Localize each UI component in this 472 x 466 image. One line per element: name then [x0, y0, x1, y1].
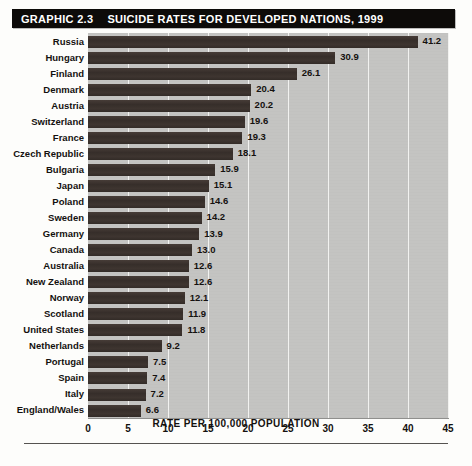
- gridline: [448, 33, 449, 418]
- bar-row: 7.4: [88, 370, 448, 387]
- category-label: Norway: [0, 291, 84, 305]
- bar: [88, 212, 202, 224]
- bar-value-label: 30.9: [340, 50, 359, 64]
- category-label: Switzerland: [0, 115, 84, 129]
- bar-row: 13.9: [88, 226, 448, 243]
- bar-value-label: 13.0: [197, 243, 216, 257]
- category-label: Scotland: [0, 307, 84, 321]
- bar: [88, 308, 183, 320]
- bar-value-label: 7.2: [151, 387, 164, 401]
- bar-row: 9.2: [88, 338, 448, 355]
- category-label: Japan: [0, 179, 84, 193]
- bar: [88, 52, 335, 64]
- bar-row: 20.2: [88, 97, 448, 114]
- bar-value-label: 12.6: [194, 275, 213, 289]
- category-label: Bulgaria: [0, 163, 84, 177]
- category-label: Australia: [0, 259, 84, 273]
- bar: [88, 244, 192, 256]
- bar-row: 7.2: [88, 386, 448, 403]
- bottom-divider: [24, 443, 448, 444]
- bar: [88, 132, 242, 144]
- graphic-number: GRAPHIC 2.3: [12, 13, 93, 25]
- bar: [88, 260, 189, 272]
- plot-area: 41.230.926.120.420.219.619.318.115.915.1…: [88, 33, 449, 419]
- bar-row: 41.2: [88, 33, 448, 50]
- bar-row: 13.0: [88, 242, 448, 259]
- bar: [88, 372, 147, 384]
- bar-row: 15.9: [88, 161, 448, 178]
- bar-value-label: 20.2: [255, 98, 274, 112]
- bar: [88, 84, 251, 96]
- bar-chart: RussiaHungaryFinlandDenmarkAustriaSwitze…: [0, 30, 472, 430]
- category-label: New Zealand: [0, 275, 84, 289]
- bar-value-label: 7.4: [152, 371, 165, 385]
- bar-value-label: 18.1: [238, 146, 257, 160]
- bar-row: 19.3: [88, 129, 448, 146]
- bar-row: 26.1: [88, 65, 448, 82]
- bar-row: 15.1: [88, 177, 448, 194]
- bar-row: 14.2: [88, 209, 448, 226]
- bar-value-label: 7.5: [153, 355, 166, 369]
- category-label: United States: [0, 323, 84, 337]
- category-label: England/Wales: [0, 403, 84, 417]
- bar-value-label: 19.6: [250, 114, 269, 128]
- category-label: Canada: [0, 243, 84, 257]
- category-label: Portugal: [0, 355, 84, 369]
- bar-value-label: 20.4: [256, 82, 275, 96]
- bar-value-label: 26.1: [302, 66, 321, 80]
- bar: [88, 100, 250, 112]
- category-label: France: [0, 131, 84, 145]
- graphic-title-banner: GRAPHIC 2.3 SUICIDE RATES FOR DEVELOPED …: [12, 9, 455, 28]
- category-label: Hungary: [0, 51, 84, 65]
- bar-value-label: 12.6: [194, 259, 213, 273]
- category-label: Czech Republic: [0, 147, 84, 161]
- category-label: Russia: [0, 35, 84, 49]
- bar: [88, 36, 418, 48]
- bar-row: 18.1: [88, 145, 448, 162]
- bar-value-label: 14.2: [207, 210, 226, 224]
- bar: [88, 68, 297, 80]
- bar-value-label: 9.2: [167, 339, 180, 353]
- bar-row: 19.6: [88, 113, 448, 130]
- category-label: Finland: [0, 67, 84, 81]
- bar: [88, 340, 162, 352]
- bar-value-label: 11.9: [188, 307, 206, 321]
- bar-value-label: 13.9: [204, 227, 223, 241]
- bar: [88, 196, 205, 208]
- bar-row: 12.6: [88, 258, 448, 275]
- x-axis-title: RATE PER 100,000 POPULATION: [0, 418, 472, 429]
- category-label: Sweden: [0, 211, 84, 225]
- bar: [88, 180, 209, 192]
- bar-row: 11.8: [88, 322, 448, 339]
- bar-value-label: 15.1: [214, 178, 233, 192]
- bar-value-label: 15.9: [220, 162, 239, 176]
- bar-value-label: 41.2: [423, 34, 442, 48]
- bar-row: 20.4: [88, 81, 448, 98]
- page-title: SUICIDE RATES FOR DEVELOPED NATIONS, 199…: [93, 13, 383, 25]
- bar: [88, 148, 233, 160]
- bar-value-label: 14.6: [210, 194, 229, 208]
- bar: [88, 356, 148, 368]
- bar: [88, 116, 245, 128]
- bar: [88, 389, 146, 401]
- bar-value-label: 19.3: [247, 130, 266, 144]
- category-label: Spain: [0, 371, 84, 385]
- bar-row: 12.6: [88, 274, 448, 291]
- bar-row: 6.6: [88, 402, 448, 419]
- bar: [88, 324, 182, 336]
- category-label: Germany: [0, 227, 84, 241]
- bar-value-label: 12.1: [190, 291, 209, 305]
- bar-row: 7.5: [88, 354, 448, 371]
- bar: [88, 276, 189, 288]
- category-label: Austria: [0, 99, 84, 113]
- bar-row: 12.1: [88, 290, 448, 307]
- bar-row: 30.9: [88, 49, 448, 66]
- bar: [88, 292, 185, 304]
- bar-value-label: 6.6: [146, 403, 159, 417]
- bar: [88, 228, 199, 240]
- category-label: Denmark: [0, 83, 84, 97]
- category-label: Netherlands: [0, 339, 84, 353]
- bar-row: 14.6: [88, 193, 448, 210]
- category-label: Poland: [0, 195, 84, 209]
- category-axis: RussiaHungaryFinlandDenmarkAustriaSwitze…: [0, 33, 84, 418]
